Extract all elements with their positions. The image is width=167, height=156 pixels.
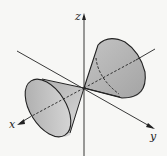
y-axis-label: y [149,130,157,143]
z-axis-arrow-icon [82,13,86,20]
lower-nappe [16,71,84,144]
upper-nappe [84,39,145,98]
x-axis-arrow-icon [17,119,25,125]
z-axis-label: z [74,10,81,23]
y-axis-arrow-icon [146,123,155,129]
double-cone-diagram: z x y [0,0,167,156]
x-axis-label: x [9,118,16,131]
